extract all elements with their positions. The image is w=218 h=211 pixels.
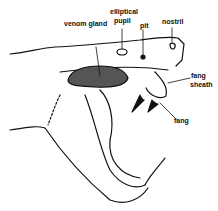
label-elliptical-line1: elliptical xyxy=(110,8,138,16)
label-fang-sheath-line2: sheath xyxy=(190,81,213,89)
label-pit: pit xyxy=(140,22,149,30)
label-pupil-line2: pupil xyxy=(114,17,131,25)
snake-head-drawing xyxy=(0,0,218,211)
label-fang: fang xyxy=(174,117,189,125)
label-nostril: nostril xyxy=(162,18,183,26)
label-fang-sheath-line1: fang xyxy=(191,72,206,80)
snake-head-diagram: venom gland elliptical pupil pit nostril… xyxy=(0,0,218,211)
label-venom-gland: venom gland xyxy=(64,20,107,28)
